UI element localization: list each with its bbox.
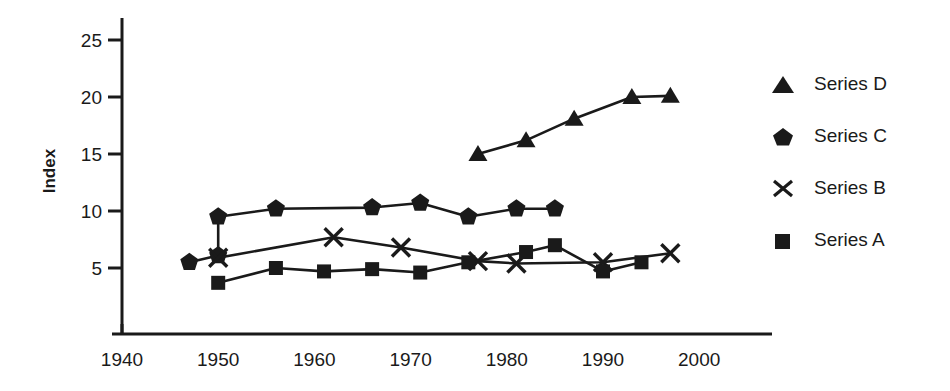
- legend-label-3: Series A: [814, 229, 885, 251]
- x-tick-label: 1980: [486, 349, 528, 370]
- legend-item-1[interactable]: Series C: [770, 110, 950, 162]
- pentagon-marker: [209, 207, 227, 224]
- square-marker: [548, 238, 562, 252]
- legend-item-2[interactable]: Series B: [770, 162, 950, 214]
- square-marker: [461, 255, 475, 269]
- x-tick-label: 2000: [678, 349, 720, 370]
- y-axis-title-text: Index: [40, 148, 59, 193]
- x-tick-label: 1940: [101, 349, 143, 370]
- x-tick-label: 1970: [389, 349, 431, 370]
- square-marker: [269, 261, 283, 275]
- y-tick-label: 5: [91, 258, 102, 279]
- square-marker: [413, 266, 427, 280]
- square-marker: [365, 262, 379, 276]
- pentagon-marker: [267, 199, 285, 216]
- triangle-marker: [565, 110, 584, 126]
- x-tick-label: 1950: [197, 349, 239, 370]
- legend-label-2: Series B: [814, 177, 886, 199]
- square-marker: [317, 264, 331, 278]
- axis-group: [108, 18, 772, 334]
- pentagon-marker: [363, 198, 381, 215]
- legend-label-1: Series C: [814, 125, 887, 147]
- square-marker-icon: [770, 229, 814, 251]
- triangle-marker: [517, 131, 536, 147]
- square-marker: [634, 255, 648, 269]
- y-tick-label: 10: [81, 201, 102, 222]
- y-axis-title: Index: [40, 148, 59, 193]
- square-marker: [596, 264, 610, 278]
- pentagon-marker: [507, 199, 525, 216]
- x-tick-label: 1960: [293, 349, 335, 370]
- pentagon-marker: [209, 246, 227, 263]
- chart-figure: 5101520251940195019601970198019902000 In…: [0, 0, 950, 391]
- cross-marker-icon: [770, 177, 814, 199]
- x-tick-label: 1990: [582, 349, 624, 370]
- legend-item-0[interactable]: Series D: [770, 58, 950, 110]
- pentagon-marker: [411, 194, 429, 211]
- chart-plot-area: 5101520251940195019601970198019902000 In…: [0, 0, 790, 391]
- series-2: [180, 194, 564, 270]
- triangle-marker-icon: [770, 73, 814, 95]
- pentagon-marker: [546, 199, 564, 216]
- tick-label-group: 5101520251940195019601970198019902000: [81, 30, 720, 370]
- series-1: [468, 87, 679, 161]
- pentagon-marker: [459, 207, 477, 224]
- y-tick-label: 15: [81, 144, 102, 165]
- line-chart-svg: 5101520251940195019601970198019902000 In…: [0, 0, 790, 391]
- pentagon-marker: [180, 253, 198, 270]
- chart-legend: Series D Series C Series B Series A: [770, 58, 950, 266]
- legend-label-0: Series D: [814, 73, 887, 95]
- y-tick-label: 25: [81, 30, 102, 51]
- series-4: [211, 238, 648, 290]
- legend-item-3[interactable]: Series A: [770, 214, 950, 266]
- y-tick-label: 20: [81, 87, 102, 108]
- square-marker: [211, 276, 225, 290]
- series-group: [180, 87, 680, 290]
- square-marker: [519, 245, 533, 259]
- pentagon-marker-icon: [770, 125, 814, 147]
